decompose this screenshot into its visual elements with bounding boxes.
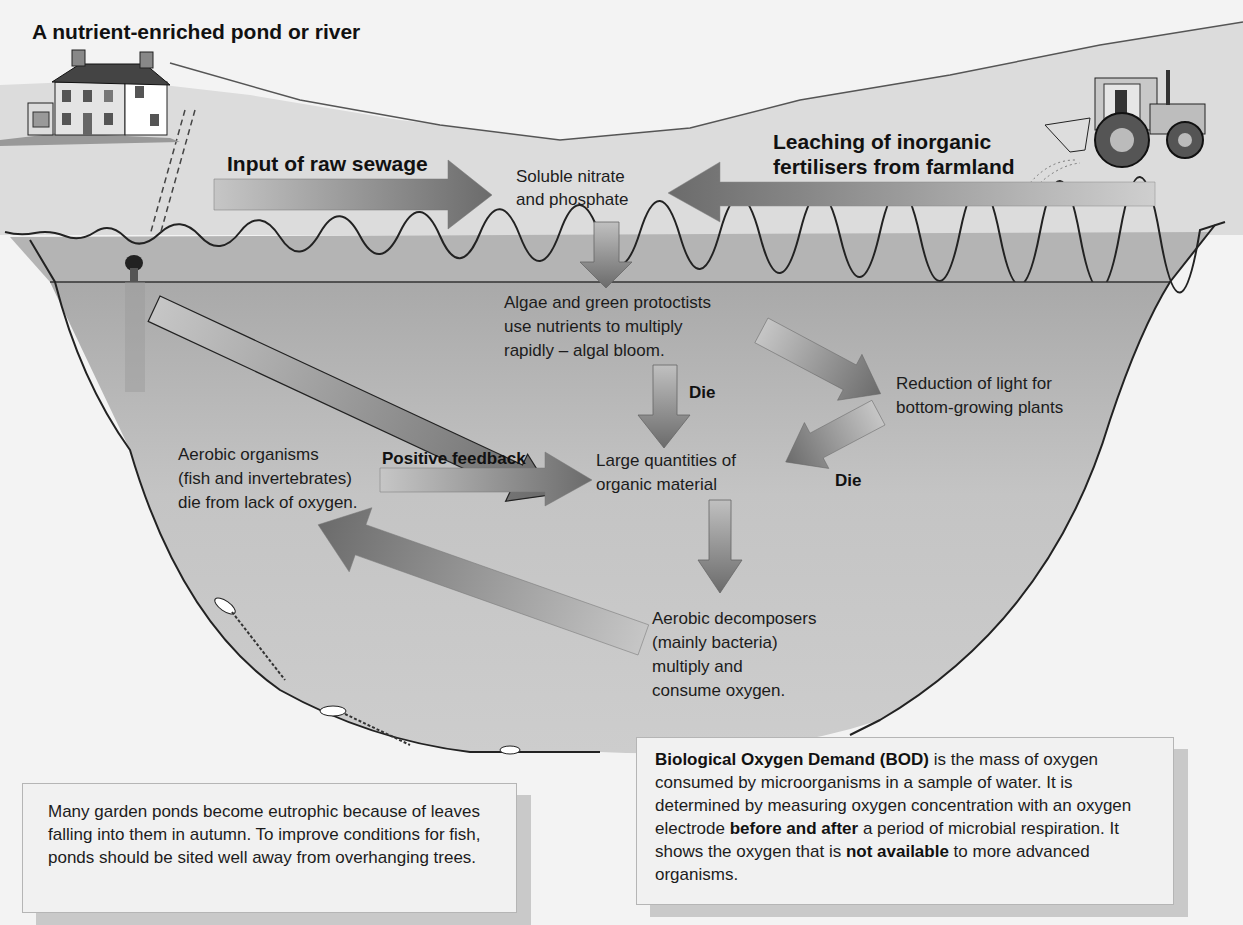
- diagram-title: A nutrient-enriched pond or river: [32, 20, 360, 44]
- node-nutrients-line: and phosphate: [516, 188, 629, 211]
- bod-term: Biological Oxygen Demand (BOD): [655, 750, 929, 769]
- note-bod: Biological Oxygen Demand (BOD) is the ma…: [636, 737, 1174, 905]
- node-aerobic-organisms-line: (fish and invertebrates): [178, 467, 352, 490]
- label-fertiliser-1: Leaching of inorganic: [773, 130, 991, 154]
- bod-emphasis: not available: [846, 842, 949, 861]
- node-decomposers-line: consume oxygen.: [652, 679, 785, 702]
- label-die-plants: Die: [835, 469, 861, 492]
- note-garden-ponds-text: Many garden ponds become eutrophic becau…: [48, 802, 480, 867]
- node-decomposers-line: Aerobic decomposers: [652, 607, 816, 630]
- eutrophication-diagram: A nutrient-enriched pond or river Input …: [0, 0, 1243, 925]
- node-organic-line: Large quantities of: [596, 449, 736, 472]
- label-fertiliser-2: fertilisers from farmland: [773, 155, 1015, 179]
- label-positive-feedback: Positive feedback: [382, 447, 526, 470]
- node-light-line: bottom-growing plants: [896, 396, 1063, 419]
- node-aerobic-organisms-line: Aerobic organisms: [178, 443, 319, 466]
- node-aerobic-organisms-line: die from lack of oxygen.: [178, 491, 358, 514]
- label-die-algae: Die: [689, 381, 715, 404]
- node-organic-line: organic material: [596, 473, 717, 496]
- node-algae-line: rapidly – algal bloom.: [504, 339, 665, 362]
- label-raw-sewage: Input of raw sewage: [227, 152, 428, 176]
- bod-emphasis: before and after: [730, 819, 858, 838]
- node-decomposers-line: (mainly bacteria): [652, 631, 778, 654]
- node-nutrients-line: Soluble nitrate: [516, 165, 625, 188]
- node-light-line: Reduction of light for: [896, 372, 1052, 395]
- node-decomposers-line: multiply and: [652, 655, 743, 678]
- note-garden-ponds: Many garden ponds become eutrophic becau…: [22, 783, 517, 913]
- node-algae-line: use nutrients to multiply: [504, 315, 683, 338]
- node-algae-line: Algae and green protoctists: [504, 291, 711, 314]
